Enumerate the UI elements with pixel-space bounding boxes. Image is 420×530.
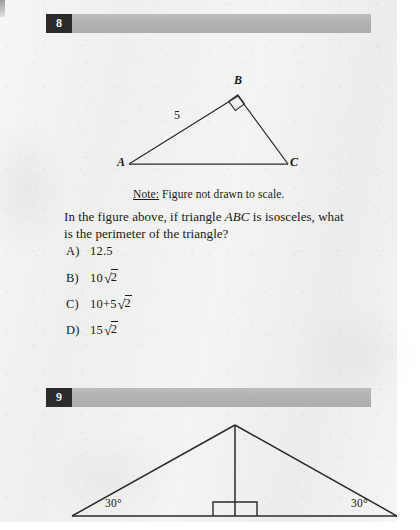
choice-a-letter: A) — [66, 244, 90, 259]
isosceles-triangle-svg — [50, 418, 397, 522]
choice-a[interactable]: A) 12.5 — [66, 244, 132, 270]
choice-d[interactable]: D) 15√2 — [66, 322, 132, 348]
choice-c-radical: √2 — [117, 296, 132, 312]
choice-c-value: 10+5√2 — [90, 296, 132, 312]
choice-d-value: 15√2 — [90, 322, 118, 338]
vertex-label-b: B — [234, 73, 242, 88]
choice-d-coefficient: 15 — [90, 323, 103, 337]
triangle-left-leg — [72, 425, 235, 516]
question-9-header-bar — [46, 388, 371, 407]
question-9-figure: 30° 30° — [50, 418, 397, 522]
choice-c-letter: C) — [66, 297, 90, 312]
question-8-italic-token: ABC — [225, 209, 250, 224]
choice-b-letter: B) — [66, 271, 90, 286]
vertex-label-c: C — [290, 155, 298, 170]
side-label-ab: 5 — [174, 108, 180, 123]
question-8-prompt-line-2: is the perimeter of the triangle? — [64, 225, 394, 242]
question-8-prompt: In the figure above, if triangle ABC is … — [64, 208, 394, 242]
question-8-number-box: 8 — [46, 14, 72, 33]
choice-d-letter: D) — [66, 323, 90, 338]
choice-b-value: 10√2 — [90, 270, 118, 286]
choice-a-value: 12.5 — [90, 244, 113, 259]
triangle-side-bc — [238, 96, 288, 164]
right-angle-marker-right — [235, 502, 257, 516]
figure-note-prefix: Note: — [133, 188, 159, 200]
question-9-number-box: 9 — [46, 388, 72, 407]
choice-b[interactable]: B) 10√2 — [66, 270, 132, 296]
figure-note-text: Figure not drawn to scale. — [159, 188, 284, 200]
figure-note: Note: Figure not drawn to scale. — [133, 188, 284, 200]
choice-c-radicand: 2 — [125, 295, 132, 311]
question-8-header-bar — [46, 14, 371, 33]
choice-c-prefix: 10+ — [90, 297, 110, 311]
page-edge-artifact — [0, 0, 5, 17]
angle-label-right: 30° — [351, 497, 368, 509]
question-9-number: 9 — [56, 390, 62, 405]
triangle-abc-svg — [110, 68, 310, 183]
triangle-right-leg — [235, 425, 397, 516]
choice-b-radical: √2 — [103, 270, 118, 286]
triangle-side-ab — [129, 96, 238, 164]
choice-b-coefficient: 10 — [90, 271, 103, 285]
right-angle-marker-left — [213, 502, 235, 516]
choice-d-radical: √2 — [103, 322, 118, 338]
choice-b-radicand: 2 — [111, 269, 118, 285]
question-8-figure: A B C 5 — [110, 68, 310, 183]
question-8-choices: A) 12.5 B) 10√2 C) 10+5√2 D) 15√2 — [66, 244, 132, 348]
question-8-prompt-line-1: In the figure above, if triangle ABC is … — [64, 208, 394, 225]
vertex-label-a: A — [117, 155, 125, 170]
choice-c[interactable]: C) 10+5√2 — [66, 296, 132, 322]
question-8-number: 8 — [56, 16, 62, 31]
choice-d-radicand: 2 — [111, 321, 118, 337]
angle-label-left: 30° — [105, 497, 122, 509]
